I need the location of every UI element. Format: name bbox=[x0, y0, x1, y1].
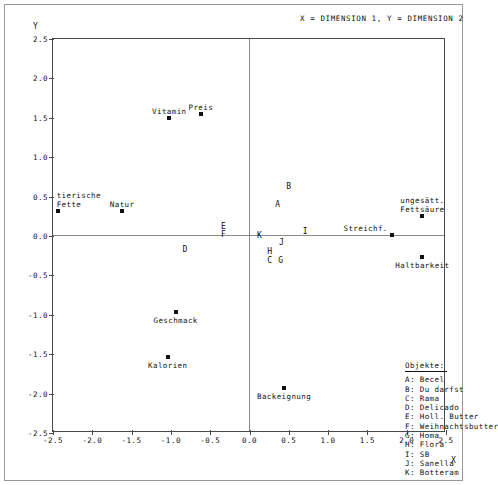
legend-item-g: G: Homa bbox=[405, 431, 498, 440]
y-tick-mark bbox=[49, 197, 54, 198]
data-point-marker bbox=[120, 209, 124, 213]
data-point-label: Backeignung bbox=[257, 392, 311, 401]
x-tick-mark bbox=[289, 430, 290, 435]
y-tick-mark bbox=[49, 39, 54, 40]
y-tick-label: 1.5 bbox=[33, 113, 48, 122]
x-tick-mark bbox=[367, 430, 368, 435]
legend-item-k: K: Botteram bbox=[405, 468, 498, 477]
legend-item-d: D: Delicado bbox=[405, 403, 498, 412]
y-tick-mark bbox=[49, 394, 54, 395]
legend-divider bbox=[405, 371, 447, 372]
y-tick-label: -0.5 bbox=[28, 271, 48, 280]
y-tick-label: 0.0 bbox=[33, 232, 48, 241]
y-tick-mark bbox=[49, 78, 54, 79]
data-point-label: ungesätt. Fettsäure bbox=[400, 196, 444, 214]
data-point-marker bbox=[174, 310, 178, 314]
y-tick-label: 1.0 bbox=[33, 153, 48, 162]
data-point-marker bbox=[167, 116, 171, 120]
data-point-marker bbox=[420, 214, 424, 218]
data-point-marker bbox=[420, 255, 424, 259]
x-tick-mark bbox=[250, 430, 251, 435]
x-tick-mark bbox=[92, 430, 93, 435]
y-tick-mark bbox=[49, 315, 54, 316]
legend-item-j: J: Sanella bbox=[405, 459, 498, 468]
object-letter-c: C bbox=[267, 256, 272, 265]
y-tick-mark bbox=[49, 157, 54, 158]
legend-item-c: C: Rama bbox=[405, 394, 498, 403]
legend-rows: A: BecelB: Du darfstC: RamaD: DelicadoE:… bbox=[405, 375, 498, 477]
data-point-marker bbox=[56, 209, 60, 213]
y-tick-mark bbox=[49, 118, 54, 119]
x-tick-label: -0.5 bbox=[200, 436, 220, 445]
x-tick-mark bbox=[171, 430, 172, 435]
horizontal-zero-line bbox=[53, 235, 444, 236]
data-point-label: Haltbarkeit bbox=[395, 261, 449, 270]
y-tick-mark bbox=[49, 354, 54, 355]
object-letter-k: K bbox=[257, 231, 262, 240]
x-tick-label: -1.5 bbox=[122, 436, 142, 445]
dimension-caption: X = DIMENSION 1, Y = DIMENSION 2 bbox=[300, 14, 464, 23]
x-tick-label: 0.0 bbox=[242, 436, 257, 445]
x-tick-label: 1.0 bbox=[321, 436, 336, 445]
legend-item-b: B: Du darfst bbox=[405, 385, 498, 394]
y-axis-label: Y bbox=[33, 22, 38, 31]
legend-item-i: I: SB bbox=[405, 450, 498, 459]
x-tick-label: 0.5 bbox=[281, 436, 296, 445]
data-point-marker bbox=[282, 386, 286, 390]
object-letter-b: B bbox=[286, 182, 291, 191]
y-tick-label: -2.0 bbox=[28, 389, 48, 398]
x-tick-mark bbox=[53, 430, 54, 435]
y-tick-label: 2.0 bbox=[33, 74, 48, 83]
y-tick-label: -1.5 bbox=[28, 350, 48, 359]
x-tick-label: -1.0 bbox=[161, 436, 181, 445]
x-tick-mark bbox=[328, 430, 329, 435]
x-tick-mark bbox=[132, 430, 133, 435]
legend-title: Objekte: bbox=[405, 361, 498, 370]
data-point-label: tierische Fette bbox=[57, 191, 101, 209]
data-point-marker bbox=[166, 355, 170, 359]
object-letter-j: J bbox=[279, 237, 284, 246]
x-tick-mark bbox=[210, 430, 211, 435]
data-point-marker bbox=[390, 233, 394, 237]
object-letter-f: F bbox=[221, 229, 226, 238]
data-point-label: Vitamin bbox=[152, 107, 186, 116]
legend-item-e: E: Holl. Butter bbox=[405, 412, 498, 421]
data-point-label: Preis bbox=[188, 103, 213, 112]
object-letter-i: I bbox=[303, 227, 308, 236]
x-tick-label: 1.5 bbox=[360, 436, 375, 445]
data-point-marker bbox=[199, 112, 203, 116]
scatter-plot-area: 2.52.01.51.00.50.0-0.5-1.0-1.5-2.0-2.5 -… bbox=[52, 38, 445, 432]
data-point-label: Geschmack bbox=[153, 316, 197, 325]
object-letter-h: H bbox=[267, 246, 272, 255]
x-tick-label: -2.0 bbox=[82, 436, 102, 445]
legend-item-h: H: Flora bbox=[405, 440, 498, 449]
y-tick-mark bbox=[49, 236, 54, 237]
x-tick-label: -2.5 bbox=[43, 436, 63, 445]
y-tick-mark bbox=[49, 275, 54, 276]
legend-objekte: Objekte: A: BecelB: Du darfstC: RamaD: D… bbox=[405, 361, 498, 478]
object-letter-g: G bbox=[278, 256, 283, 265]
data-point-label: Kalorien bbox=[148, 361, 187, 370]
y-tick-label: 2.5 bbox=[33, 35, 48, 44]
y-tick-label: 0.5 bbox=[33, 192, 48, 201]
object-letter-d: D bbox=[182, 245, 187, 254]
data-point-label: Streichf. bbox=[344, 224, 388, 233]
legend-item-f: F: Weihnachtsbutter bbox=[405, 422, 498, 431]
object-letter-a: A bbox=[275, 200, 280, 209]
y-tick-label: -1.0 bbox=[28, 310, 48, 319]
data-point-label: Natur bbox=[110, 200, 135, 209]
legend-item-a: A: Becel bbox=[405, 375, 498, 384]
